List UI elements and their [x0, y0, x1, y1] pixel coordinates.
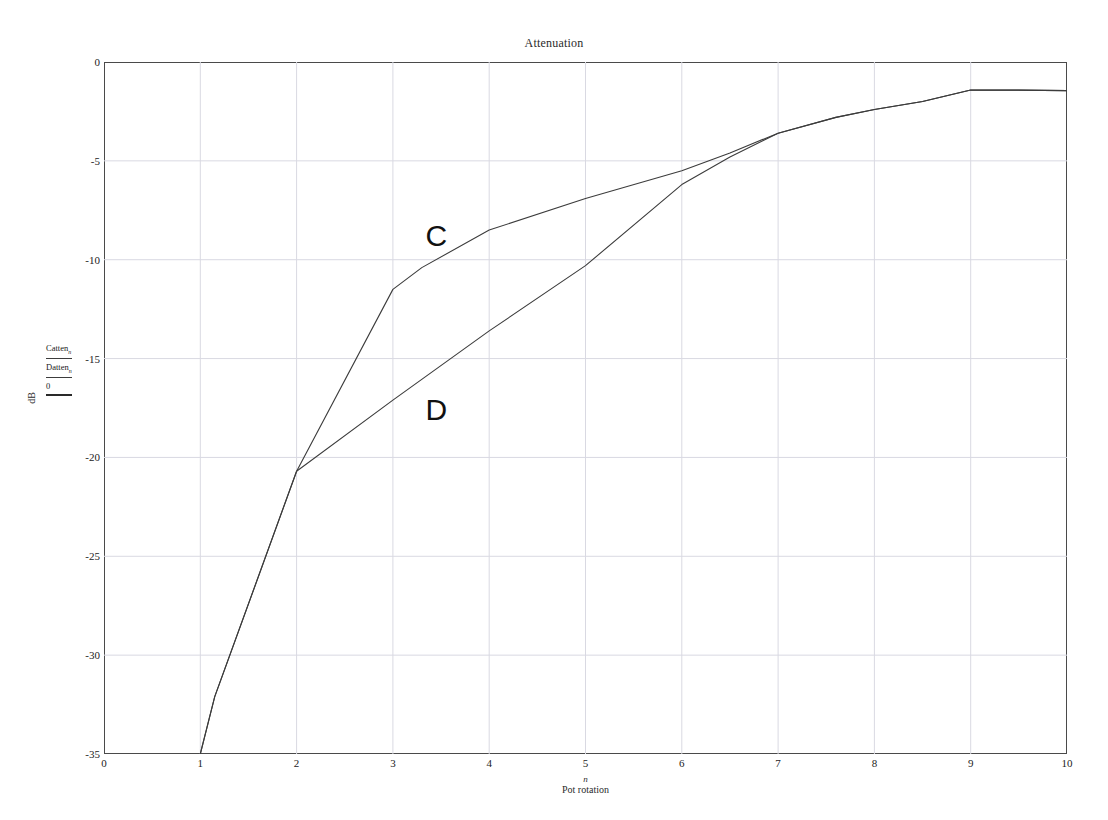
x-tick-9: 9 [968, 757, 974, 769]
curve-catten [200, 90, 1067, 754]
x-tick-3: 3 [390, 757, 396, 769]
legend-entry-datten: Dattenn [46, 363, 100, 378]
chart-legend: CattennDattenn0 [46, 344, 100, 400]
curve-label-d: D [425, 395, 447, 425]
attenuation-chart-figure: Attenuation 0-5-10-15-20-25-30-35 CD 012… [0, 0, 1108, 820]
legend-label: Dattenn [46, 363, 100, 374]
x-tick-0: 0 [101, 757, 107, 769]
legend-entry-0: 0 [46, 382, 100, 396]
x-tick-8: 8 [872, 757, 878, 769]
legend-line-swatch [46, 394, 72, 396]
gridlines [104, 62, 1067, 754]
legend-line-swatch [46, 377, 72, 378]
legend-subscript: n [68, 349, 71, 355]
y-tick-neg30: -30 [85, 649, 100, 661]
y-tick-neg25: -25 [85, 550, 100, 562]
legend-label: Cattenn [46, 344, 100, 355]
x-tick-7: 7 [775, 757, 781, 769]
x-axis-tick-labels: 012345678910 [104, 757, 1067, 775]
x-tick-5: 5 [583, 757, 589, 769]
y-axis-label: dB [26, 392, 37, 404]
x-tick-10: 10 [1062, 757, 1073, 769]
legend-line-swatch [46, 358, 72, 359]
legend-subscript: n [69, 368, 72, 374]
curve-datten [200, 90, 1067, 754]
x-axis-label: Pot rotation [104, 784, 1067, 796]
y-tick-neg20: -20 [85, 451, 100, 463]
x-tick-4: 4 [486, 757, 492, 769]
x-axis-variable: n [104, 774, 1067, 784]
x-axis-title: n Pot rotation [104, 774, 1067, 796]
plot-canvas [104, 62, 1067, 754]
y-tick-neg10: -10 [85, 254, 100, 266]
plot-area: CD [104, 62, 1067, 754]
legend-label: 0 [46, 382, 100, 391]
y-tick-0: 0 [95, 56, 101, 68]
x-tick-1: 1 [198, 757, 204, 769]
x-tick-6: 6 [679, 757, 685, 769]
y-tick-neg5: -5 [91, 155, 100, 167]
data-curves [200, 90, 1067, 754]
legend-entry-catten: Cattenn [46, 344, 100, 359]
y-tick-neg35: -35 [85, 748, 100, 760]
curve-label-c: C [425, 221, 447, 251]
chart-title: Attenuation [0, 36, 1108, 51]
x-tick-2: 2 [294, 757, 300, 769]
y-axis-tick-labels: 0-5-10-15-20-25-30-35 [62, 62, 100, 754]
